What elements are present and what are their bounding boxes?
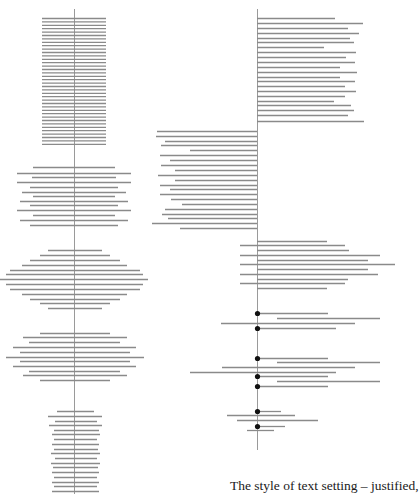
axes <box>75 9 258 494</box>
bullet-dot-icon <box>255 356 260 361</box>
asymmetric-block <box>240 242 395 289</box>
flush-left-block <box>257 19 364 122</box>
dotted-block <box>190 311 380 431</box>
bullet-dot-icon <box>255 326 260 331</box>
caption-text: The style of text setting – justified, <box>230 478 419 494</box>
line-blocks <box>0 19 395 492</box>
bullet-dot-icon <box>255 384 260 389</box>
bullet-dot-icon <box>255 311 260 316</box>
bullet-dot-icon <box>255 409 260 414</box>
flush-right-block <box>152 132 257 229</box>
bullet-dot-icon <box>255 374 260 379</box>
bullet-dot-icon <box>255 424 260 429</box>
